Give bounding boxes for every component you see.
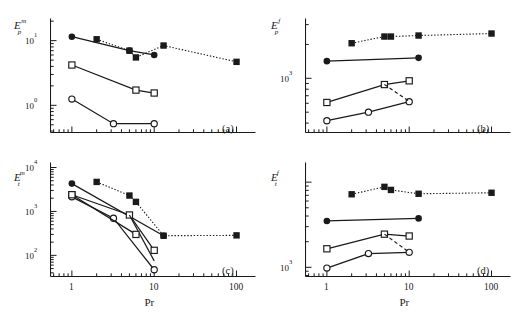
panel-b-series-open_square-line <box>327 81 409 103</box>
panel-a-label: (a) <box>222 123 234 134</box>
panel-c-point-filled_square-0 <box>93 179 99 185</box>
panel-c-point-filled_square-2 <box>133 199 139 205</box>
panel-b-point-filled_circle-0 <box>324 58 331 65</box>
panel-d-series-filled_circle-line <box>327 218 419 221</box>
panel-c-point-open_circle-2 <box>151 267 157 273</box>
panel-b-point-open_circle-1 <box>365 109 371 115</box>
panel-c-plot <box>50 162 257 278</box>
panel-a-point-filled_circle-2 <box>151 52 158 59</box>
panel-c-xlabel: Pr <box>145 296 155 308</box>
panel-d-point-filled_square-0 <box>348 191 354 197</box>
panel-c-series-filled_square-line <box>97 182 237 236</box>
panel-d-ylabel-sub: t <box>275 180 277 188</box>
panel-b-point-filled_square-2 <box>388 33 394 39</box>
panel-c-xtick-1: 10 <box>149 282 159 292</box>
panel-d-xlabel: Pr <box>400 296 410 308</box>
panel-a-series-filled_circle-line <box>72 37 154 55</box>
panel-a-point-open_circle-1 <box>110 121 116 127</box>
panel-c-point-open_square-2 <box>151 247 157 253</box>
panel-a-point-filled_square-3 <box>160 42 166 48</box>
panel-d-point-open_square-2 <box>406 233 412 239</box>
panel-b-point-filled_square-4 <box>488 30 494 36</box>
panel-b-plot <box>305 18 512 134</box>
panel-d-point-filled_circle-1 <box>415 215 422 222</box>
panel-b-point-open_square-1 <box>381 81 387 87</box>
panel-d-point-filled_square-4 <box>488 190 494 196</box>
panel-c-ylabel-sub: t <box>18 180 20 188</box>
panel-b-series-open_square_branch-line <box>384 85 409 102</box>
panel-d-point-filled_square-3 <box>415 191 421 197</box>
panel-c-point-filled_circle-1 <box>160 232 167 239</box>
panel-c-ytick-1: 103 <box>25 205 37 217</box>
panel-c <box>50 162 257 278</box>
panel-a-point-open_square-0 <box>69 62 75 68</box>
panel-d-plot <box>305 162 512 278</box>
panel-a-ytick-1: 101 <box>25 34 37 46</box>
panel-a-point-filled_square-2 <box>133 54 139 60</box>
panel-b-point-open_circle-0 <box>324 118 330 124</box>
panel-c-point-filled_circle-0 <box>69 180 76 187</box>
panel-c-point-open_square_low-0 <box>69 192 75 198</box>
panel-a-series-open_square-line <box>72 65 154 93</box>
panel-b-point-filled_square-3 <box>415 32 421 38</box>
panel-a-point-filled_square-1 <box>126 47 132 53</box>
panel-d-ylabel: Etf <box>271 170 282 186</box>
panel-a-point-open_circle-0 <box>69 96 75 102</box>
panel-d <box>305 162 512 278</box>
panel-b-point-filled_circle-1 <box>415 55 422 62</box>
panel-a-point-filled_circle-0 <box>69 33 76 40</box>
panel-d-series-open_square-line <box>327 234 409 249</box>
panel-b-ylabel-sub: p <box>275 28 279 36</box>
panel-c-point-filled_square-1 <box>126 192 132 198</box>
panel-b-point-open_square-0 <box>324 99 330 105</box>
panel-b-point-filled_square-1 <box>381 33 387 39</box>
panel-a-point-open_circle-2 <box>151 121 157 127</box>
panel-d-xtick-1: 10 <box>404 282 414 292</box>
panel-c-point-filled_square-4 <box>233 232 239 238</box>
panel-c-label: (c) <box>222 265 234 276</box>
panel-c-ytick-0: 102 <box>25 249 37 261</box>
panel-b-ytick-0: 103 <box>280 72 292 84</box>
panel-b <box>305 18 512 134</box>
panel-b-point-filled_square-0 <box>348 40 354 46</box>
panel-a-point-open_square-2 <box>151 90 157 96</box>
panel-b-point-open_square-2 <box>406 78 412 84</box>
panel-d-series-open_square_branch-line <box>384 234 409 252</box>
panel-c-xtick-2: 100 <box>229 282 243 292</box>
panel-b-ylabel-sup: f <box>278 17 280 25</box>
panel-a-series-open_circle-line <box>72 99 154 124</box>
panel-a-point-filled_square-4 <box>233 59 239 65</box>
panel-d-point-filled_square-2 <box>388 187 394 193</box>
panel-a-plot <box>50 18 257 134</box>
panel-a-point-open_square-1 <box>133 87 139 93</box>
panel-d-point-open_square-0 <box>324 246 330 252</box>
panel-a <box>50 18 257 134</box>
figure-panel-grid: Epm (a) Epf (b) Etm (c) Etf (d) 10010110… <box>0 0 513 326</box>
panel-a-point-filled_square-0 <box>93 36 99 42</box>
panel-d-point-filled_square-1 <box>381 184 387 190</box>
panel-d-label: (d) <box>477 265 489 276</box>
panel-d-ylabel-sup: f <box>277 169 279 177</box>
panel-b-ylabel: Epf <box>271 18 283 34</box>
panel-b-label: (b) <box>477 123 489 134</box>
panel-c-series-filled_circle-line <box>72 184 164 236</box>
panel-c-ytick-2: 104 <box>25 161 37 173</box>
panel-a-ylabel: Epm <box>14 18 29 34</box>
panel-a-ylabel-sup: m <box>21 17 26 25</box>
panel-d-point-open_circle-1 <box>365 250 371 256</box>
panel-d-point-filled_circle-0 <box>324 218 331 225</box>
panel-a-ylabel-sub: p <box>18 28 22 36</box>
panel-b-series-filled_circle-line <box>327 58 419 61</box>
panel-a-ytick-0: 100 <box>25 99 37 111</box>
panel-c-ylabel-sup: m <box>20 169 25 177</box>
panel-d-ytick-0: 103 <box>280 261 292 273</box>
panel-c-point-open_square_low-1 <box>133 231 139 237</box>
panel-d-xtick-2: 100 <box>484 282 498 292</box>
panel-c-xtick-0: 1 <box>69 282 74 292</box>
panel-d-point-open_circle-0 <box>324 265 330 271</box>
panel-d-xtick-0: 1 <box>324 282 329 292</box>
